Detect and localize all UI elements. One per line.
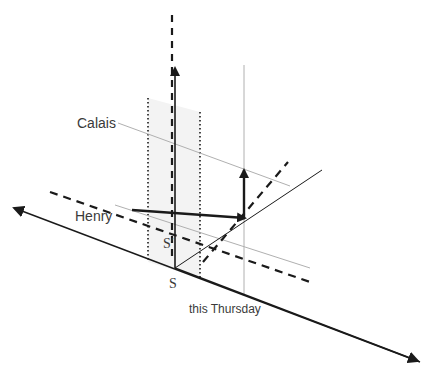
this-thursday-label: this Thursday — [189, 302, 261, 316]
henry-label: Henry — [75, 208, 112, 224]
shaded-band — [148, 98, 200, 278]
henry-light-line — [115, 205, 310, 268]
s-label: S — [169, 276, 177, 291]
calais-label: Calais — [77, 115, 116, 131]
calais-line — [118, 123, 290, 186]
diagram-canvas: Calais Henry S′ S this Thursday — [0, 0, 428, 373]
s-prime-label: S′ — [163, 236, 174, 251]
